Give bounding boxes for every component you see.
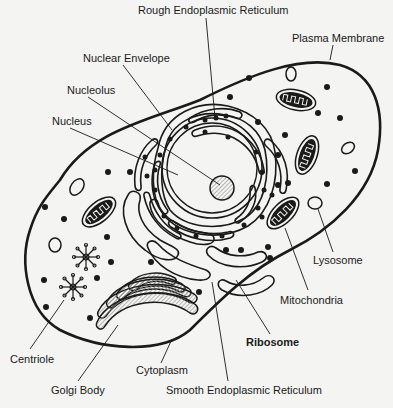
label-nucleus: Nucleus [52,115,92,127]
label-cytoplasm: Cytoplasm [136,364,188,376]
label-rough-er: Rough Endoplasmic Reticulum [138,4,288,16]
label-plasma-membrane: Plasma Membrane [292,32,384,44]
label-nuclear-envelope: Nuclear Envelope [83,52,170,64]
label-lysosome: Lysosome [313,254,363,266]
nucleus-inner [167,123,257,213]
label-smooth-er: Smooth Endoplasmic Reticulum [166,384,322,396]
nucleolus [210,176,234,200]
cell-diagram [0,0,393,408]
label-golgi-body: Golgi Body [51,384,105,396]
label-mitochondria: Mitochondria [280,294,343,306]
label-centriole: Centriole [10,353,54,365]
centriole [60,244,100,301]
golgi-body [96,273,197,329]
label-nucleolus: Nucleolus [67,84,115,96]
label-ribosome: Ribosome [246,336,299,348]
leader-lines [30,18,333,381]
